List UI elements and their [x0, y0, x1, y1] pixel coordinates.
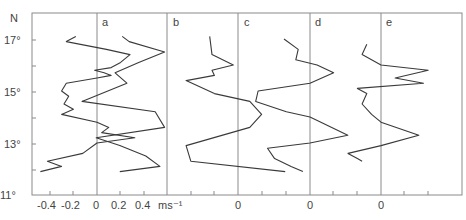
panel-label-a: a — [102, 16, 109, 28]
y-tick-17: 17° — [4, 34, 21, 46]
y-tick-15: 15° — [4, 86, 21, 98]
x-tick-04: 0.4 — [135, 199, 150, 211]
panel-label-b: b — [173, 16, 179, 28]
panel-label-c: c — [244, 16, 250, 28]
profile-curve-c — [186, 36, 285, 171]
panel-c-zero: 0 — [235, 199, 241, 211]
x-tick-02: 0.2 — [111, 199, 126, 211]
profile-curve-e — [348, 44, 428, 161]
velocity-profile-chart: N 17° 15° 13° 11° -0.4 -0.2 0 0.2 0.4 ms… — [0, 0, 466, 220]
panel-label-d: d — [315, 16, 321, 28]
profile-curve-b — [82, 36, 165, 171]
y-tick-13: 13° — [4, 138, 21, 150]
x-tick-neg04: -0.4 — [37, 199, 56, 211]
x-unit-label: ms⁻¹ — [158, 199, 183, 211]
y-tick-11: 11° — [0, 189, 16, 201]
zero-lines — [97, 13, 381, 195]
y-ticks — [32, 40, 36, 170]
x-ticks — [50, 191, 428, 195]
panel-label-e: e — [386, 16, 392, 28]
panel-d-zero: 0 — [307, 199, 313, 211]
y-axis-label: N — [10, 12, 18, 24]
x-tick-neg02: -0.2 — [61, 199, 80, 211]
panel-e-zero: 0 — [378, 199, 384, 211]
curves — [40, 36, 428, 171]
profile-curve-d — [256, 39, 348, 172]
profile-curve-a — [40, 36, 134, 171]
x-tick-0: 0 — [93, 199, 99, 211]
